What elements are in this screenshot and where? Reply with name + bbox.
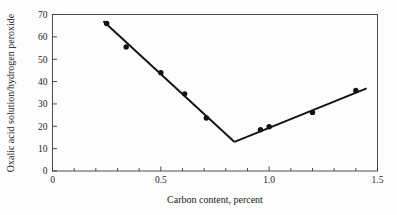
data-point (258, 127, 263, 132)
y-tick-label: 10 (38, 144, 48, 154)
y-tick-label: 30 (38, 99, 48, 109)
y-tick-label: 60 (38, 32, 48, 42)
y-tick-label: 40 (38, 77, 48, 87)
x-tick-label: 0 (50, 175, 55, 185)
y-tick-label: 50 (38, 55, 48, 65)
y-axis-title: Oxalic acid solution/hydrogen peroxide (5, 13, 16, 172)
y-tick-label: 20 (38, 122, 48, 132)
data-point (310, 110, 315, 115)
data-point (104, 21, 109, 26)
x-tick-label: 0.5 (155, 175, 167, 185)
chart-figure: 00.51.01.5 010203040506070 Carbon conten… (0, 0, 397, 215)
data-point (182, 91, 187, 96)
x-tick-label: 1.0 (263, 175, 275, 185)
data-point (266, 124, 271, 129)
x-tick-label: 1.5 (372, 175, 384, 185)
data-point (123, 44, 128, 49)
scatter-plot: 00.51.01.5 010203040506070 Carbon conten… (0, 0, 397, 215)
data-point (158, 70, 163, 75)
y-tick-label: 70 (38, 10, 48, 20)
data-point (353, 88, 358, 93)
x-axis-title: Carbon content, percent (167, 194, 263, 205)
data-point (204, 115, 209, 120)
y-tick-label: 0 (43, 166, 48, 176)
